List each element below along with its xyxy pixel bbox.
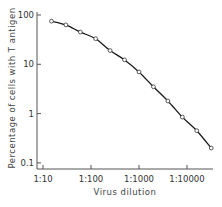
data-point-marker (78, 30, 82, 34)
plot-area: 1001010.1 1:101:1001:10001:10000 (18, 10, 213, 184)
data-point-marker (152, 85, 156, 89)
y-tick-label: 100 (18, 10, 34, 20)
y-tick-label: 0.1 (20, 158, 34, 168)
y-axis-title: Percentage of cells with T antigen (7, 7, 17, 168)
data-line (52, 21, 212, 148)
data-point-marker (137, 70, 141, 74)
chart: 1001010.1 1:101:1001:10001:10000 Virus d… (0, 0, 222, 207)
x-axis-title: Virus dilution (94, 187, 157, 197)
y-ticks: 1001010.1 (18, 10, 41, 168)
data-point-marker (123, 58, 127, 62)
data-point-marker (50, 19, 54, 23)
data-point-marker (209, 146, 213, 150)
x-tick-label: 1:100 (79, 174, 104, 184)
y-tick-label: 1 (29, 109, 34, 119)
data-point-marker (180, 115, 184, 119)
data-point-marker (195, 129, 199, 133)
x-ticks: 1:101:1001:10001:10000 (33, 165, 204, 184)
data-point-marker (108, 49, 112, 53)
x-tick-label: 1:10000 (169, 174, 204, 184)
data-point-marker (166, 99, 170, 103)
data-point-marker (64, 23, 68, 27)
data-markers (50, 19, 214, 150)
data-point-marker (94, 37, 98, 41)
x-tick-label: 1:10 (33, 174, 52, 184)
x-tick-label: 1:1000 (124, 174, 154, 184)
y-tick-label: 10 (23, 59, 34, 69)
